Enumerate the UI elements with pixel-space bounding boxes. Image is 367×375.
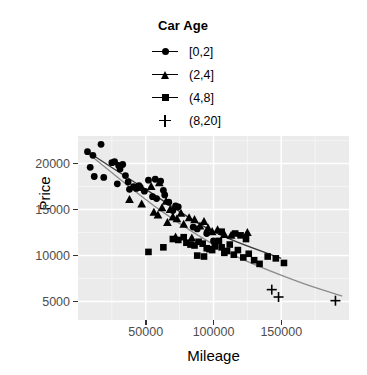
- data-point: [114, 180, 121, 187]
- data-point: [100, 174, 107, 181]
- data-point: [194, 252, 201, 259]
- series-square: [145, 228, 287, 267]
- data-point: [160, 244, 167, 251]
- data-point: [98, 141, 105, 148]
- data-point: [125, 179, 132, 186]
- data-point: [145, 249, 152, 256]
- data-point: [216, 238, 223, 245]
- data-point: [218, 228, 225, 235]
- data-point: [281, 260, 288, 267]
- data-point: [267, 285, 277, 295]
- grey-fit-line: [92, 156, 343, 296]
- data-point: [119, 161, 126, 168]
- data-point: [226, 241, 233, 248]
- data-point: [235, 247, 242, 254]
- data-point: [125, 195, 134, 203]
- y-tick-label: 15000: [22, 203, 70, 217]
- data-point: [264, 253, 271, 260]
- x-tick-mark: [281, 320, 282, 325]
- y-tick-label: 5000: [22, 295, 70, 309]
- data-point: [200, 217, 209, 225]
- data-point: [87, 164, 94, 171]
- x-tick-label: 150000: [246, 325, 316, 339]
- x-tick-label: 100000: [179, 325, 249, 339]
- data-point: [91, 173, 98, 180]
- data-point: [90, 152, 97, 159]
- x-tick-mark: [145, 320, 146, 325]
- x-tick-mark: [213, 320, 214, 325]
- chart-root: Car Age [0,2] (2,4] (4,8] (8,20]: [0, 0, 367, 375]
- data-point: [330, 296, 340, 306]
- series-plus: [267, 285, 341, 306]
- data-point: [145, 177, 152, 184]
- data-point: [256, 261, 263, 268]
- y-tick-label: 10000: [22, 249, 70, 263]
- data-point: [243, 228, 252, 236]
- data-point: [224, 248, 231, 255]
- data-point: [153, 195, 160, 202]
- data-point: [274, 292, 284, 302]
- data-point: [243, 236, 250, 243]
- plot-panel: [78, 136, 349, 320]
- y-tick-label: 20000: [22, 157, 70, 171]
- plot-svg: [78, 136, 349, 320]
- data-point: [141, 188, 148, 195]
- data-point: [245, 250, 252, 257]
- data-point: [122, 172, 129, 179]
- data-point: [161, 191, 168, 198]
- data-point: [201, 253, 208, 260]
- data-point: [273, 255, 280, 262]
- data-point: [137, 199, 146, 207]
- x-tick-label: 50000: [111, 325, 181, 339]
